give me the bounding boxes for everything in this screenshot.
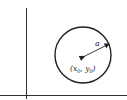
circle — [55, 27, 111, 83]
radius-label: a — [95, 39, 100, 48]
center-label: (x0, y0) — [70, 64, 96, 74]
diagram-canvas: a (x0, y0) — [0, 0, 127, 100]
